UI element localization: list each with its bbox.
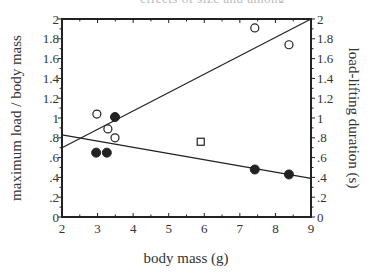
open-circle-marker [111,134,119,142]
y2-tick-label: .6 [317,150,327,165]
y-tick-label: 1 [53,111,60,126]
y-tick-label: .8 [49,130,59,145]
plot-border [62,19,311,217]
y-tick-label: 1.2 [43,91,59,106]
y2-tick-label: 2 [317,12,324,27]
x-tick-label: 3 [94,221,101,236]
y-tick-label: .2 [49,190,59,205]
scatter-chart: 234567890.2.4.6.811.21.41.61.820.2.4.6.8… [0,0,372,274]
x-tick-label: 5 [165,221,172,236]
y-tick-label: 1.6 [43,51,60,66]
y2-axis-title: load-lifting duration (s) [345,48,362,189]
y2-tick-label: 1.6 [317,51,334,66]
y-tick-label: 2 [53,12,60,27]
x-tick-label: 9 [308,221,315,236]
y2-tick-label: 0 [317,210,324,225]
y-tick-label: .4 [49,170,59,185]
data-points [92,24,294,179]
x-tick-label: 2 [59,221,66,236]
y2-tick-label: 1.2 [317,91,333,106]
open-circle-marker [93,110,101,118]
filled-circle-marker [111,113,120,122]
y2-tick-label: 1 [317,111,324,126]
y2-tick-label: 1.8 [317,31,333,46]
filled-circle-marker [284,170,293,179]
y-tick-label: 0 [53,210,60,225]
y2-tick-label: .8 [317,130,327,145]
fit-line [62,19,311,148]
plot-frame [62,19,311,217]
y-tick-label: .6 [49,150,59,165]
x-tick-label: 8 [272,221,279,236]
open-circle-marker [104,125,112,133]
open-square-marker [197,138,204,145]
y-tick-label: 1.4 [43,71,60,86]
fit-line [62,135,311,179]
filled-circle-marker [92,148,101,157]
y2-tick-label: .2 [317,190,327,205]
y2-tick-label: .4 [317,170,327,185]
open-circle-marker [251,24,259,32]
y2-tick-label: 1.4 [317,71,334,86]
x-tick-label: 7 [237,221,244,236]
x-axis-title: body mass (g) [144,250,229,267]
filled-circle-marker [250,165,259,174]
x-tick-label: 4 [130,221,137,236]
y-axis-title: maximum load / body mass [8,35,24,201]
filled-circle-marker [102,148,111,157]
open-circle-marker [285,41,293,49]
y-tick-label: 1.8 [43,31,59,46]
x-tick-label: 6 [201,221,208,236]
